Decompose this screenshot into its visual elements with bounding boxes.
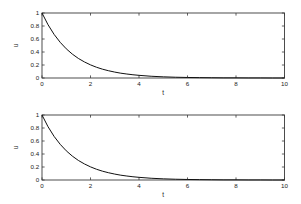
figure-canvas: 024681000.20.40.60.81tu 024681000.20.40.… xyxy=(0,0,301,204)
y-tick-label: 0.6 xyxy=(31,35,40,42)
x-tick-label: 10 xyxy=(281,182,288,189)
y-tick-label: 0.8 xyxy=(31,124,40,131)
y-axis-label: u xyxy=(12,145,19,149)
y-tick-label: 1 xyxy=(36,111,40,118)
x-tick-label: 8 xyxy=(234,182,238,189)
y-tick-label: 0.2 xyxy=(31,163,40,170)
subplot-bottom: 024681000.20.40.60.81tu xyxy=(0,102,301,204)
subplot-top: 024681000.20.40.60.81tu xyxy=(0,0,301,102)
x-tick-label: 2 xyxy=(89,182,93,189)
plot-area-bottom: 024681000.20.40.60.81tu xyxy=(0,102,301,204)
y-tick-label: 0 xyxy=(36,74,40,81)
y-tick-label: 0 xyxy=(36,176,40,183)
x-tick-label: 0 xyxy=(40,182,44,189)
x-tick-label: 6 xyxy=(186,182,190,189)
y-tick-label: 0.4 xyxy=(31,48,40,55)
x-axis-label: t xyxy=(162,191,164,198)
x-tick-label: 4 xyxy=(137,80,141,87)
y-tick-label: 0.2 xyxy=(31,61,40,68)
x-axis-label: t xyxy=(162,89,164,96)
y-tick-label: 0.6 xyxy=(31,137,40,144)
x-tick-label: 10 xyxy=(281,80,288,87)
y-axis-label: u xyxy=(12,43,19,47)
y-tick-label: 0.8 xyxy=(31,22,40,29)
plot-area-top: 024681000.20.40.60.81tu xyxy=(0,0,301,102)
x-tick-label: 2 xyxy=(89,80,93,87)
x-tick-label: 6 xyxy=(186,80,190,87)
data-series-curve xyxy=(42,13,285,78)
x-tick-label: 0 xyxy=(40,80,44,87)
y-tick-label: 1 xyxy=(36,9,40,16)
x-tick-label: 4 xyxy=(137,182,141,189)
x-tick-label: 8 xyxy=(234,80,238,87)
data-series-curve xyxy=(42,115,285,180)
y-tick-label: 0.4 xyxy=(31,150,40,157)
